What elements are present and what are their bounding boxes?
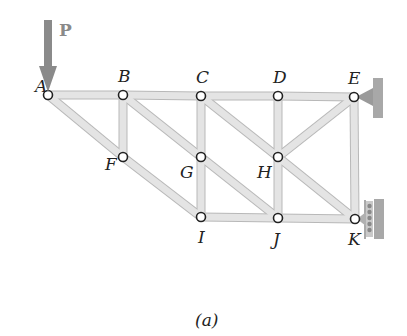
joint-B — [119, 91, 128, 100]
figure-caption: (a) — [195, 310, 218, 330]
joint-label-K: K — [347, 229, 362, 249]
joint-label-F: F — [104, 154, 118, 174]
joint-C — [197, 92, 206, 101]
truss-figure: ABCDEFGHIJK P (a) — [0, 0, 407, 336]
load-label: P — [59, 20, 72, 40]
truss-diagram: ABCDEFGHIJK P (a) — [0, 0, 407, 336]
joint-E — [350, 93, 359, 102]
joint-label-D: D — [272, 67, 287, 87]
joint-label-B: B — [117, 66, 131, 86]
joint-H — [274, 153, 283, 162]
joint-D — [274, 92, 283, 101]
member-CH — [201, 96, 278, 157]
member-JK — [278, 218, 355, 219]
joint-I — [197, 213, 206, 222]
joint-label-C: C — [196, 67, 209, 87]
joint-K — [351, 215, 360, 224]
member-EK — [354, 97, 355, 219]
member-DE — [278, 96, 354, 97]
joint-label-G: G — [180, 162, 194, 182]
joint-label-J: J — [270, 229, 281, 249]
roller-support-icon — [357, 199, 384, 239]
joint-label-H: H — [256, 162, 273, 182]
member-BC — [123, 95, 201, 96]
joint-label-E: E — [347, 68, 361, 88]
joint-F — [119, 153, 128, 162]
member-HE — [278, 97, 354, 157]
member-HK — [278, 157, 355, 219]
joint-J — [274, 214, 283, 223]
member-IJ — [201, 217, 278, 218]
joint-G — [197, 153, 206, 162]
joint-label-I: I — [197, 227, 205, 247]
member-BG — [123, 95, 201, 157]
member-AF — [48, 95, 123, 157]
supports — [356, 78, 384, 239]
